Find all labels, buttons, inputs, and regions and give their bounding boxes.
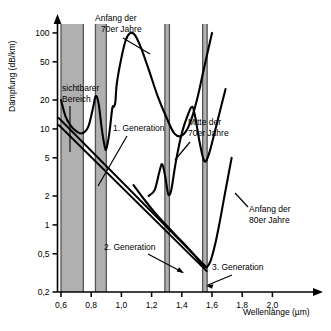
- annotation-mitte-70er-line1: Mitte der: [188, 117, 221, 127]
- annotation-sichtbarer-bereich-line2: Bereich: [62, 94, 91, 104]
- y-tick-label-2: 1: [45, 220, 50, 230]
- sichtbarer-bereich-band: [61, 24, 83, 292]
- x-tick-label-5: 1,6: [206, 300, 218, 310]
- x-axis-title: Wellenlänge (µm): [243, 307, 310, 317]
- annotation-anfang-70er-line1: Anfang der: [95, 13, 137, 23]
- chart-svg: 0,20,5125102050100 0,60,81,01,21,41,61,8…: [0, 0, 331, 331]
- annotation-sichtbarer-bereich-line1: sichtbarer: [62, 83, 99, 93]
- annotation-anfang-80er-line2: 80er Jahre: [249, 215, 290, 225]
- annotation-anfang-70er-line2: 70er Jahre: [101, 24, 142, 34]
- annotation-generation-3-label: 3. Generation: [212, 262, 264, 272]
- x-tick-label-0: 0,6: [55, 300, 67, 310]
- y-axis-title: Dämpfung (dB/km): [7, 41, 17, 112]
- annotation-mitte-70er-line2: 70er Jahre: [188, 128, 229, 138]
- y-tick-label-3: 2: [45, 191, 50, 201]
- y-tick-label-5: 10: [40, 124, 50, 134]
- y-tick-label-0: 0,2: [38, 287, 50, 297]
- x-tick-label-4: 1,4: [176, 300, 188, 310]
- y-tick-label-1: 0,5: [38, 249, 50, 259]
- y-tick-label-4: 5: [45, 153, 50, 163]
- y-tick-label-7: 50: [40, 57, 50, 67]
- x-tick-label-1: 0,8: [85, 300, 97, 310]
- band-1-30: [165, 24, 170, 292]
- x-tick-label-2: 1,0: [115, 300, 127, 310]
- annotation-generation-2-label: 2. Generation: [104, 242, 156, 252]
- band-1-30-fill: [165, 24, 170, 292]
- y-tick-label-8: 100: [35, 28, 49, 38]
- y-tick-label-6: 20: [40, 95, 50, 105]
- x-tick-label-3: 1,2: [146, 300, 158, 310]
- annotation-generation-1-label: 1. Generation: [113, 123, 165, 133]
- attenuation-chart: 0,20,5125102050100 0,60,81,01,21,41,61,8…: [0, 0, 331, 331]
- sichtbarer-bereich-band-fill: [61, 24, 83, 292]
- annotation-anfang-80er-line1: Anfang der: [249, 204, 291, 214]
